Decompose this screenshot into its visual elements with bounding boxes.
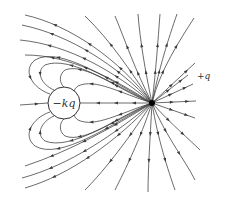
arrowhead-icon bbox=[87, 41, 92, 46]
negative-charge-label: −kq bbox=[53, 97, 76, 110]
field-line bbox=[85, 103, 152, 190]
arrowhead-icon bbox=[136, 71, 140, 76]
arrowhead-icon bbox=[185, 100, 189, 103]
arrowhead-icon bbox=[184, 113, 189, 117]
arrowhead-icon bbox=[28, 126, 32, 131]
field-line bbox=[25, 55, 152, 103]
arrowhead-icon bbox=[177, 151, 182, 156]
field-line bbox=[152, 18, 194, 103]
field-lines bbox=[20, 14, 200, 192]
arrowhead-icon bbox=[48, 166, 53, 170]
arrowhead-icon bbox=[52, 23, 57, 27]
arrowhead-icon bbox=[35, 102, 39, 105]
field-line bbox=[152, 103, 195, 118]
arrowhead-icon bbox=[114, 74, 119, 79]
field-line bbox=[152, 103, 200, 150]
field-line bbox=[22, 103, 152, 178]
field-line bbox=[152, 101, 196, 103]
arrowhead-icon bbox=[84, 48, 89, 53]
arrowhead-icon bbox=[125, 44, 129, 49]
field-line-diagram: −kq +q bbox=[0, 0, 226, 208]
arrowhead-icon bbox=[28, 75, 32, 80]
arrowhead-icon bbox=[139, 132, 143, 137]
field-line bbox=[20, 103, 48, 105]
arrowhead-icon bbox=[182, 86, 187, 90]
arrowhead-icon bbox=[165, 42, 169, 47]
arrowhead-icon bbox=[39, 72, 42, 76]
arrowhead-icon bbox=[147, 159, 150, 163]
arrowhead-icon bbox=[170, 101, 174, 104]
arrowhead-icon bbox=[169, 108, 174, 112]
arrowhead-icon bbox=[39, 130, 42, 134]
arrowhead-icon bbox=[156, 132, 160, 137]
field-line bbox=[138, 14, 152, 103]
field-line bbox=[29, 103, 152, 149]
arrowhead-icon bbox=[49, 32, 54, 36]
arrowhead-icon bbox=[51, 175, 56, 179]
arrowhead-icon bbox=[154, 70, 157, 74]
arrowhead-icon bbox=[81, 56, 86, 60]
arrowhead-icon bbox=[156, 43, 159, 47]
field-line bbox=[29, 57, 152, 103]
arrowhead-icon bbox=[149, 132, 152, 136]
arrowhead-icon bbox=[163, 158, 167, 163]
arrowhead-icon bbox=[114, 102, 118, 105]
arrowhead-icon bbox=[127, 158, 131, 163]
field-line bbox=[152, 103, 195, 180]
field-line bbox=[25, 15, 152, 103]
arrowhead-icon bbox=[69, 139, 74, 143]
arrowhead-icon bbox=[168, 92, 173, 96]
arrowhead-icon bbox=[69, 63, 74, 67]
field-line bbox=[148, 103, 152, 192]
arrowhead-icon bbox=[82, 149, 87, 154]
arrowhead-icon bbox=[132, 102, 136, 105]
field-line bbox=[152, 103, 175, 190]
positive-charge-label: +q bbox=[197, 71, 211, 81]
arrowhead-icon bbox=[118, 112, 123, 116]
field-line bbox=[115, 103, 152, 190]
arrowhead-icon bbox=[174, 44, 179, 49]
arrowhead-icon bbox=[157, 69, 161, 74]
arrowhead-icon bbox=[49, 154, 54, 158]
field-line bbox=[25, 103, 152, 188]
field-line bbox=[115, 16, 152, 103]
arrowhead-icon bbox=[89, 82, 93, 85]
arrowhead-icon bbox=[161, 69, 165, 74]
arrowhead-icon bbox=[89, 121, 93, 124]
arrowhead-icon bbox=[163, 128, 168, 133]
arrowhead-icon bbox=[47, 43, 52, 47]
arrowhead-icon bbox=[118, 89, 123, 93]
arrowhead-icon bbox=[85, 156, 90, 161]
positive-charge-dot bbox=[149, 100, 155, 106]
arrowhead-icon bbox=[96, 102, 100, 105]
